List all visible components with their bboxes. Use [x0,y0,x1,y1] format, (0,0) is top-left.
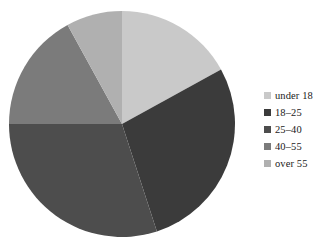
legend-color-swatch [264,92,271,99]
legend-item[interactable]: 25–40 [264,121,336,138]
legend-item-label: over 55 [275,155,307,172]
pie-svg [8,10,236,238]
legend-item-label: 18–25 [275,104,302,121]
legend-color-swatch [264,143,271,150]
legend-item[interactable]: 40–55 [264,138,336,155]
legend-item[interactable]: over 55 [264,155,336,172]
chart-legend: under 1818–2525–4040–55over 55 [264,87,336,172]
legend-item-label: 25–40 [275,121,302,138]
legend-item-label: under 18 [275,87,313,104]
pie-plot-area [8,10,236,238]
legend-color-swatch [264,160,271,167]
legend-item[interactable]: 18–25 [264,104,336,121]
legend-item[interactable]: under 18 [264,87,336,104]
pie-chart-figure: under 1818–2525–4040–55over 55 [0,0,336,251]
pie-slices-group [9,11,235,237]
legend-item-label: 40–55 [275,138,302,155]
legend-color-swatch [264,109,271,116]
legend-color-swatch [264,126,271,133]
